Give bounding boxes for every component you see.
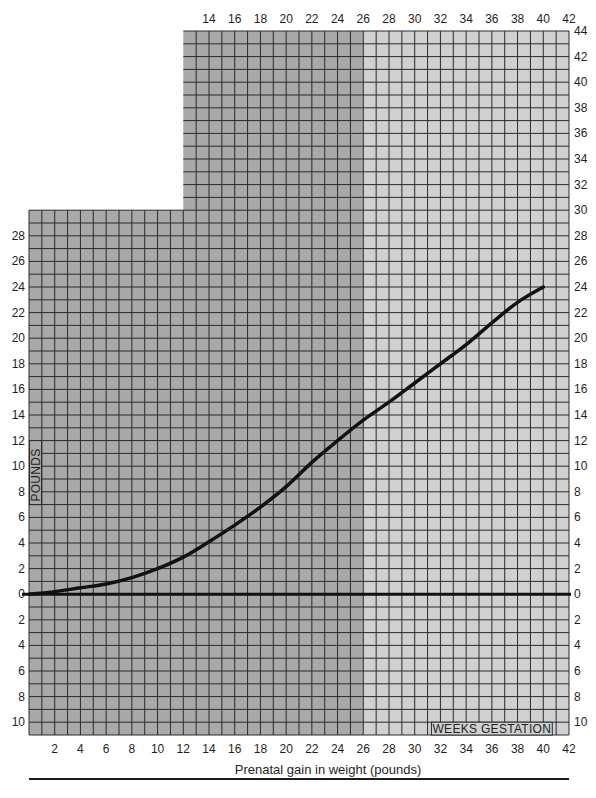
svg-text:16: 16 bbox=[228, 742, 242, 756]
svg-text:28: 28 bbox=[382, 742, 396, 756]
x-axis-ticks-top: 141618202224262830323436384042 bbox=[202, 12, 576, 26]
svg-text:16: 16 bbox=[12, 382, 26, 396]
svg-text:8: 8 bbox=[18, 485, 25, 499]
y-axis-ticks-left: 2826242220181614121086420246810 bbox=[12, 229, 26, 729]
weight-gain-chart: 24681012141618202224262830323436384042 1… bbox=[0, 0, 596, 798]
svg-text:18: 18 bbox=[254, 742, 268, 756]
svg-text:16: 16 bbox=[574, 382, 588, 396]
svg-text:40: 40 bbox=[537, 742, 551, 756]
svg-text:20: 20 bbox=[12, 331, 26, 345]
svg-text:42: 42 bbox=[574, 50, 588, 64]
bottom-rule bbox=[29, 778, 569, 780]
svg-text:8: 8 bbox=[574, 690, 581, 704]
svg-text:12: 12 bbox=[12, 434, 26, 448]
svg-text:14: 14 bbox=[12, 408, 26, 422]
svg-text:4: 4 bbox=[18, 638, 25, 652]
svg-text:10: 10 bbox=[12, 715, 26, 729]
svg-text:28: 28 bbox=[574, 229, 588, 243]
svg-text:4: 4 bbox=[574, 536, 581, 550]
svg-text:20: 20 bbox=[574, 331, 588, 345]
svg-text:42: 42 bbox=[562, 742, 576, 756]
svg-text:2: 2 bbox=[574, 613, 581, 627]
svg-text:36: 36 bbox=[485, 742, 499, 756]
svg-text:38: 38 bbox=[574, 101, 588, 115]
svg-text:32: 32 bbox=[434, 12, 448, 26]
svg-text:20: 20 bbox=[279, 742, 293, 756]
svg-text:12: 12 bbox=[177, 742, 191, 756]
svg-text:38: 38 bbox=[511, 12, 525, 26]
svg-text:12: 12 bbox=[574, 434, 588, 448]
svg-text:4: 4 bbox=[574, 638, 581, 652]
svg-text:2: 2 bbox=[51, 742, 58, 756]
svg-text:22: 22 bbox=[574, 306, 588, 320]
svg-text:6: 6 bbox=[574, 664, 581, 678]
svg-text:2: 2 bbox=[574, 562, 581, 576]
svg-text:6: 6 bbox=[18, 664, 25, 678]
svg-text:24: 24 bbox=[331, 742, 345, 756]
svg-text:28: 28 bbox=[12, 229, 26, 243]
x-axis-ticks-bottom: 24681012141618202224262830323436384042 bbox=[51, 742, 576, 756]
svg-text:34: 34 bbox=[459, 742, 473, 756]
svg-text:30: 30 bbox=[408, 742, 422, 756]
svg-text:0: 0 bbox=[18, 587, 25, 601]
svg-text:22: 22 bbox=[305, 12, 319, 26]
svg-text:38: 38 bbox=[511, 742, 525, 756]
svg-text:4: 4 bbox=[18, 536, 25, 550]
svg-text:40: 40 bbox=[537, 12, 551, 26]
svg-text:20: 20 bbox=[279, 12, 293, 26]
svg-text:24: 24 bbox=[331, 12, 345, 26]
svg-text:8: 8 bbox=[18, 690, 25, 704]
svg-text:8: 8 bbox=[129, 742, 136, 756]
svg-text:24: 24 bbox=[12, 280, 26, 294]
svg-text:36: 36 bbox=[485, 12, 499, 26]
svg-text:26: 26 bbox=[12, 254, 26, 268]
svg-text:4: 4 bbox=[77, 742, 84, 756]
svg-text:32: 32 bbox=[434, 742, 448, 756]
svg-text:30: 30 bbox=[574, 203, 588, 217]
svg-text:44: 44 bbox=[574, 24, 588, 38]
svg-text:36: 36 bbox=[574, 126, 588, 140]
svg-text:16: 16 bbox=[228, 12, 242, 26]
svg-text:26: 26 bbox=[574, 254, 588, 268]
svg-text:10: 10 bbox=[574, 459, 588, 473]
svg-text:34: 34 bbox=[459, 12, 473, 26]
svg-text:26: 26 bbox=[357, 12, 371, 26]
svg-text:28: 28 bbox=[382, 12, 396, 26]
svg-text:18: 18 bbox=[12, 357, 26, 371]
svg-text:10: 10 bbox=[574, 715, 588, 729]
y-axis-ticks-right: 4442403836343230282624222018161412108642… bbox=[574, 24, 588, 729]
svg-text:40: 40 bbox=[574, 75, 588, 89]
svg-text:32: 32 bbox=[574, 178, 588, 192]
svg-text:6: 6 bbox=[103, 742, 110, 756]
svg-text:0: 0 bbox=[574, 587, 581, 601]
svg-text:18: 18 bbox=[254, 12, 268, 26]
svg-text:14: 14 bbox=[574, 408, 588, 422]
x-axis-title: Prenatal gain in weight (pounds) bbox=[0, 762, 596, 777]
svg-text:26: 26 bbox=[357, 742, 371, 756]
svg-text:22: 22 bbox=[305, 742, 319, 756]
svg-text:18: 18 bbox=[574, 357, 588, 371]
svg-text:24: 24 bbox=[574, 280, 588, 294]
svg-text:30: 30 bbox=[408, 12, 422, 26]
svg-text:6: 6 bbox=[18, 510, 25, 524]
svg-text:14: 14 bbox=[202, 12, 216, 26]
svg-text:10: 10 bbox=[151, 742, 165, 756]
svg-text:6: 6 bbox=[574, 510, 581, 524]
svg-text:14: 14 bbox=[202, 742, 216, 756]
svg-text:22: 22 bbox=[12, 306, 26, 320]
svg-text:10: 10 bbox=[12, 459, 26, 473]
svg-text:2: 2 bbox=[18, 562, 25, 576]
svg-text:34: 34 bbox=[574, 152, 588, 166]
weeks-gestation-label: WEEKS GESTATION bbox=[432, 722, 551, 736]
svg-text:2: 2 bbox=[18, 613, 25, 627]
svg-text:8: 8 bbox=[574, 485, 581, 499]
y-axis-label: POUNDS bbox=[29, 448, 43, 501]
